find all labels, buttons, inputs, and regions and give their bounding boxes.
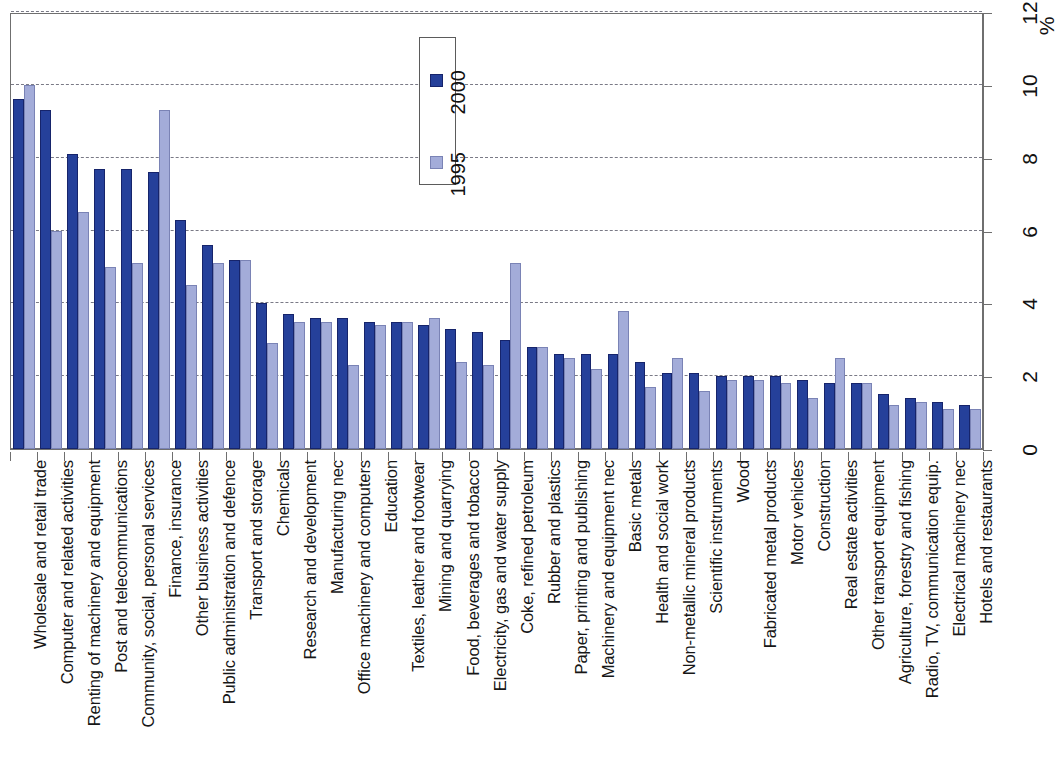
bar-2000 [662,373,673,449]
category-label: Wood [734,460,753,502]
bar-2000 [148,172,159,449]
category-label: Textiles, leather and footwear [409,460,428,672]
legend: 2000 1995 [419,37,456,185]
bar-1995 [781,383,792,449]
bar-2000 [391,322,402,449]
bar-2000 [716,376,727,449]
category-label: Electricity, gas and water supply [491,460,510,691]
bar-group [579,14,606,449]
category-label: Transport and storage [247,460,266,620]
value-tick-label-6: 6 [1018,212,1042,252]
bar-group [308,14,335,449]
category-label: Education [382,460,401,533]
category-label: Manufacturing nec [328,460,347,594]
bars-container [11,14,982,449]
bar-1995 [429,318,440,449]
bar-1995 [727,380,738,449]
bar-2000 [905,398,916,449]
bar-2000 [229,260,240,449]
category-label: Public administration and defence [220,460,239,704]
bar-2000 [878,394,889,449]
legend-label-2000: 2000 [447,70,470,115]
value-tick-6 [983,232,992,233]
value-tick-2 [983,377,992,378]
bar-1995 [618,311,629,449]
bar-group [903,14,930,449]
bar-group [957,14,984,449]
bar-2000 [310,318,321,449]
bar-1995 [537,347,548,449]
category-label: Coke, refined petroleum [518,460,537,634]
bar-group [92,14,119,449]
bar-2000 [94,169,105,449]
value-tick-label-2: 2 [1018,357,1042,397]
category-label: Real estate activities [842,460,861,609]
value-tick-4 [983,304,992,305]
bar-group [254,14,281,449]
bar-group [876,14,903,449]
bar-1995 [645,387,656,449]
bar-group [660,14,687,449]
bar-1995 [456,362,467,449]
bar-2000 [121,169,132,449]
category-label: Other transport equipment [869,460,888,650]
bar-group [65,14,92,449]
bar-2000 [13,99,24,449]
category-label: Finance, insurance [166,460,185,598]
bar-1995 [24,85,35,449]
legend-swatch-1995-icon [430,156,443,169]
bar-group [552,14,579,449]
bar-1995 [321,322,332,449]
bar-1995 [132,263,143,449]
bar-2000 [445,329,456,449]
bar-2000 [608,354,619,449]
value-tick-10 [983,86,992,87]
bar-group [362,14,389,449]
legend-swatch-2000-icon [430,74,443,87]
bar-2000 [959,405,970,449]
bar-1995 [267,343,278,449]
bar-1995 [699,391,710,449]
value-tick-label-10: 10 [1018,66,1042,106]
bar-1995 [808,398,819,449]
bar-1995 [105,267,116,449]
category-label: Radio, TV, communication equip. [923,460,942,698]
bar-2000 [554,354,565,449]
bar-group [227,14,254,449]
bar-1995 [348,365,359,449]
category-label: Mining and quarrying [436,460,455,612]
bar-2000 [824,383,835,449]
bar-1995 [835,358,846,449]
category-label: Construction [815,460,834,551]
bar-group [714,14,741,449]
bar-2000 [256,303,267,449]
bar-group [741,14,768,449]
bar-1995 [970,409,981,449]
bar-group [687,14,714,449]
bar-1995 [672,358,683,449]
bar-2000 [527,347,538,449]
bar-1995 [159,110,170,449]
plot-area [10,13,983,450]
bar-2000 [635,362,646,449]
category-label: Food, beverages and tobacco [464,460,483,676]
bar-2000 [743,376,754,449]
legend-label-1995: 1995 [447,152,470,197]
category-label: Community, social, personal services [139,460,158,728]
bar-1995 [402,322,413,449]
bar-group [281,14,308,449]
category-label: Basic metals [626,460,645,552]
bar-2000 [770,376,781,449]
bar-group [470,14,497,449]
bar-2000 [175,220,186,449]
bar-group [11,14,38,449]
category-label: Paper, printing and publishing [572,460,591,674]
category-label: Wholesale and retail trade [31,460,50,649]
category-label: Machinery and equipment nec [599,460,618,678]
value-tick-0 [983,450,992,451]
bar-1995 [916,402,927,449]
bar-group [525,14,552,449]
bar-1995 [591,369,602,449]
category-label: Health and social work [653,460,672,624]
bar-group [389,14,416,449]
